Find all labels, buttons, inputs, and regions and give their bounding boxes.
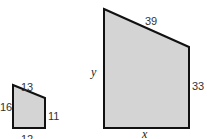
large-bottom-label: x <box>141 127 148 139</box>
small-left-label: 16 <box>0 101 12 113</box>
small-right-label: 11 <box>48 110 59 122</box>
small-bottom-label: 12 <box>21 133 33 139</box>
small-top-label: 13 <box>21 81 33 93</box>
large-top-label: 39 <box>145 15 157 27</box>
similar-trapezoids-diagram: 13 16 11 12 39 y 33 x <box>0 0 207 139</box>
large-left-label: y <box>90 65 97 79</box>
large-right-label: 33 <box>192 80 204 92</box>
